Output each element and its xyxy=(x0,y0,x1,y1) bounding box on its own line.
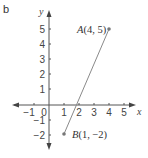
point-a-label: A(4, 5) xyxy=(76,24,107,36)
coordinate-chart: b y x −1 0 1 2 3 4 5 5 4 3 2 1 −1 −2 xyxy=(0,0,148,158)
y-tick-label: 2 xyxy=(39,69,45,80)
y-tick-label: 4 xyxy=(39,39,45,50)
x-tick-label: 4 xyxy=(106,107,112,118)
point-b-coords: (1, −2) xyxy=(78,129,107,141)
x-axis-left-arrow-icon xyxy=(12,103,19,108)
x-tick-label: 5 xyxy=(121,107,127,118)
y-axis xyxy=(47,10,52,150)
y-tick-label: 5 xyxy=(39,24,45,35)
x-axis-right-arrow-icon xyxy=(129,103,136,108)
x-tick-label: 3 xyxy=(91,107,97,118)
y-tick-label: −1 xyxy=(34,115,46,126)
segment-ab xyxy=(64,29,109,134)
point-a-marker xyxy=(107,27,111,31)
x-tick-label: 1 xyxy=(61,107,67,118)
panel-label: b xyxy=(3,3,9,15)
y-tick-label: 1 xyxy=(39,84,45,95)
point-b-marker xyxy=(62,132,66,136)
point-b-label: B(1, −2) xyxy=(72,129,108,141)
y-tick-label: −2 xyxy=(34,130,46,141)
y-axis-down-arrow-icon xyxy=(47,143,52,150)
point-a-coords: (4, 5) xyxy=(83,24,106,36)
y-axis-label: y xyxy=(38,6,44,17)
x-axis-label: x xyxy=(136,106,142,117)
x-tick-label: 2 xyxy=(76,107,82,118)
y-tick-label: 3 xyxy=(39,54,45,65)
y-axis-up-arrow-icon xyxy=(47,10,52,17)
